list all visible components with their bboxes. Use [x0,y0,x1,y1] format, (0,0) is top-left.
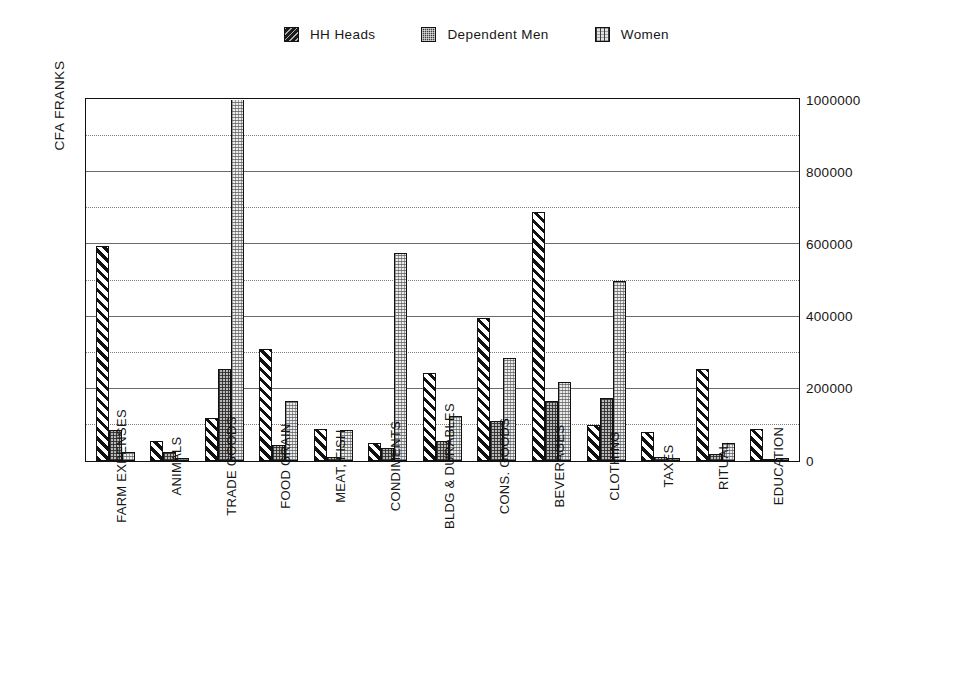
y-axis-tick-label: 400000 [806,309,853,324]
bar-group [524,99,579,461]
bar[interactable] [532,212,545,461]
bar-group [143,99,198,461]
bar-group [633,99,688,461]
light-stipple-swatch [595,27,610,42]
x-axis-label-text: MEAT, FISH [333,429,348,503]
x-axis-label-text: CLOTHING [607,431,622,501]
y-axis-tick-label: 600000 [806,236,853,251]
x-axis-label: BLDG & DURABLES [415,466,470,626]
x-axis-label: CONDIMENTS [360,466,415,626]
chart-legend: HH HeadsDependent MenWomen [0,27,953,42]
bar[interactable] [641,432,654,461]
x-axis-label: RITUAL [689,466,744,626]
legend-label: Dependent Men [447,27,548,42]
bar-group [88,99,143,461]
x-axis-label: FOOD GRAIN [251,466,306,626]
y-axis-tick-label: 800000 [806,164,853,179]
y-axis-tick-label: 1000000 [806,92,861,107]
x-axis-label-text: CONS. GOODS [497,418,512,514]
bar-group [361,99,416,461]
x-axis-label-text: FARM EXPENSES [114,409,129,523]
legend-label: HH Heads [310,27,375,42]
x-axis-label: CLOTHING [579,466,634,626]
bar-group [742,99,797,461]
bar[interactable] [368,443,381,461]
bar-group [688,99,743,461]
x-axis-label: CONS. GOODS [470,466,525,626]
bar[interactable] [423,373,436,461]
bar-group [579,99,634,461]
bar[interactable] [587,425,600,461]
x-axis-label-text: RITUAL [716,442,731,490]
x-axis-label-text: TAXES [661,444,676,487]
legend-entry[interactable]: Dependent Men [421,27,548,42]
x-axis-label: TAXES [634,466,689,626]
bar[interactable] [96,246,109,461]
x-axis-label: EDUCATION [743,466,798,626]
x-axis-label-text: CONDIMENTS [388,421,403,511]
x-axis-label-text: TRADE GOODS [224,416,239,515]
bar[interactable] [231,100,244,461]
legend-entry[interactable]: Women [595,27,669,42]
y-axis-title-text: CFA FRANKS [52,60,67,150]
x-axis-label-text: EDUCATION [771,427,786,505]
x-axis-label-text: BEVERAGES [552,425,567,508]
bar[interactable] [205,418,218,461]
bar[interactable] [259,349,272,461]
y-axis-title: CFA FRANKS [44,98,74,298]
bar-chart: HH HeadsDependent MenWomen CFA FRANKS FA… [0,0,953,679]
bar-group [306,99,361,461]
bar[interactable] [314,429,327,461]
x-axis-label: MEAT, FISH [306,466,361,626]
legend-entry[interactable]: HH Heads [284,27,375,42]
x-axis-label: BEVERAGES [525,466,580,626]
x-axis-category-labels: FARM EXPENSESANIMALSTRADE GOODSFOOD GRAI… [85,466,800,626]
bar[interactable] [696,369,709,461]
x-axis-label: TRADE GOODS [196,466,251,626]
y-axis-tick-label: 0 [806,453,814,468]
x-axis-label: ANIMALS [142,466,197,626]
x-axis-label-text: BLDG & DURABLES [442,403,457,529]
bar-group [252,99,307,461]
bar-group [470,99,525,461]
bar-group [197,99,252,461]
x-axis-label-text: ANIMALS [169,436,184,495]
bar[interactable] [150,441,163,461]
legend-label: Women [621,27,669,42]
dense-dark-speckle-swatch [284,27,299,42]
x-axis-label: FARM EXPENSES [87,466,142,626]
y-axis-tick-labels: 10000008000006000004000002000000 [806,98,926,462]
mid-grey-crosshatch-swatch [421,27,436,42]
bar[interactable] [477,318,490,461]
bar[interactable] [750,429,763,461]
x-axis-label-text: FOOD GRAIN [278,423,293,508]
y-axis-tick-label: 200000 [806,381,853,396]
